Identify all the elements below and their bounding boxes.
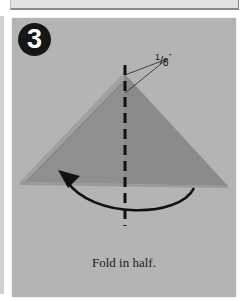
step-caption: Fold in half. bbox=[12, 255, 236, 271]
previous-step-panel-edge bbox=[10, 0, 239, 10]
step-panel: 3 1/8" Fold in half. bbox=[11, 17, 237, 298]
paper-right-half bbox=[124, 73, 228, 186]
measurement-label: 1/8" bbox=[155, 54, 171, 66]
measurement-numerator: 1 bbox=[155, 52, 160, 62]
adjacent-panel-edge bbox=[0, 16, 4, 294]
measurement-unit: " bbox=[169, 52, 172, 61]
measurement-denominator: 8 bbox=[163, 57, 169, 68]
